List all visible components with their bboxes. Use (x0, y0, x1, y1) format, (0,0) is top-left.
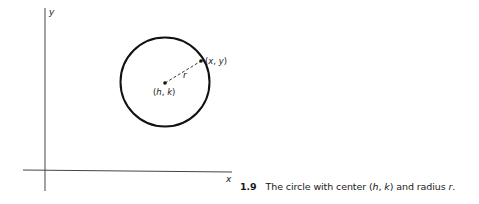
caption-text: The circle with center (h, k) and radius… (266, 181, 456, 192)
circle-diagram: y x r (h, k) (x, y) (0, 0, 479, 204)
point-label: (x, y) (205, 56, 227, 66)
figure-caption: 1.9The circle with center (h, k) and rad… (240, 181, 455, 192)
center-point (163, 81, 167, 85)
radius-label: r (183, 70, 188, 80)
x-axis-label: x (225, 174, 232, 184)
center-label: (h, k) (153, 87, 175, 97)
y-axis-label: y (48, 7, 55, 17)
x-axis (23, 170, 232, 172)
figure-number: 1.9 (240, 181, 257, 192)
circle-point (199, 59, 203, 63)
